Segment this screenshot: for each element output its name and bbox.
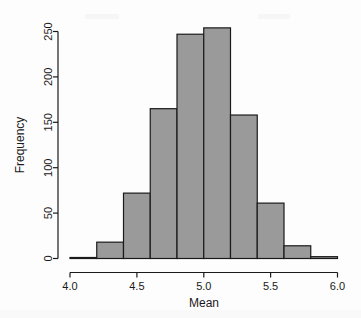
y-axis-title: Frequency (13, 117, 27, 174)
x-axis-tick-label: 6.0 (330, 280, 345, 292)
histogram-bar (124, 193, 151, 258)
y-axis-tick-label: 250 (42, 22, 54, 40)
histogram-bar (70, 258, 97, 259)
histogram-bar (311, 257, 338, 259)
x-axis-tick-label: 5.5 (263, 280, 278, 292)
histogram-bar (177, 34, 204, 258)
histogram-bar (257, 203, 284, 258)
y-axis-tick-label: 50 (42, 207, 54, 219)
x-axis-tick-label: 4.0 (62, 280, 77, 292)
histogram-svg: 050100150200250 4.04.55.05.56.0 Mean Fre… (0, 0, 361, 318)
x-axis-tick-label: 5.0 (196, 280, 211, 292)
histogram-bar (231, 115, 258, 258)
histogram-bar (204, 28, 231, 259)
histogram-bar (97, 242, 124, 258)
y-axis-tick-label: 200 (42, 68, 54, 86)
x-axis-title: Mean (189, 296, 219, 310)
y-axis-tick-label: 150 (42, 113, 54, 131)
y-axis-tick-label: 100 (42, 159, 54, 177)
x-axis-tick-label: 4.5 (129, 280, 144, 292)
x-axis (70, 273, 338, 278)
y-axis-tick-label: 0 (42, 255, 54, 261)
histogram-bar (150, 109, 177, 259)
histogram-figure: 050100150200250 4.04.55.05.56.0 Mean Fre… (0, 0, 361, 318)
histogram-bar (284, 246, 311, 259)
y-axis (53, 32, 58, 259)
y-axis-tick-labels: 050100150200250 (42, 22, 54, 261)
histogram-bars (70, 28, 338, 259)
plot-area: 050100150200250 4.04.55.05.56.0 Mean Fre… (0, 0, 361, 318)
x-axis-tick-labels: 4.04.55.05.56.0 (62, 280, 345, 292)
